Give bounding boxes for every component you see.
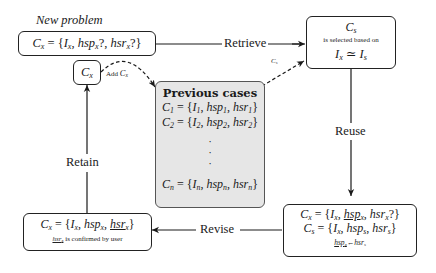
reuse-label: Reuse — [335, 124, 366, 139]
add-edge-label: Add Cx — [106, 68, 128, 78]
new-problem-box: Cx = {Ix, hspx?, hsrx?} — [18, 31, 156, 56]
retained-case-box: Cx — [73, 60, 101, 85]
case-row: Cn = {In, hspn, hsrn} — [156, 177, 264, 192]
case-row: C1 = {I1, hsp1, hsr1} — [156, 100, 264, 115]
reuse-result-box: Cx = {Ix, hspx, hsrx?} Cs = {Ix, hsps, h… — [283, 204, 417, 257]
cs-dashed-arrow — [262, 61, 304, 86]
retrieved-case-box: Cs is selected based on Ix ≃ Is — [306, 16, 396, 69]
new-problem-title: New problem — [36, 13, 103, 28]
ellipsis: · · · — [156, 136, 264, 169]
retrieve-label: Retrieve — [222, 36, 268, 51]
revised-case-box: Cx = {Ix, hspx, hsrx} hsrx is confirmed … — [23, 213, 152, 251]
case-row: C2 = {I2, hsp2, hsr2} — [156, 115, 264, 130]
previous-cases-box: Previous cases C1 = {I1, hsp1, hsr1} C2 … — [155, 81, 265, 208]
retain-label: Retain — [66, 155, 99, 170]
cs-edge-label: Cs — [271, 57, 277, 65]
revise-label: Revise — [200, 222, 234, 237]
previous-cases-title: Previous cases — [156, 86, 264, 100]
